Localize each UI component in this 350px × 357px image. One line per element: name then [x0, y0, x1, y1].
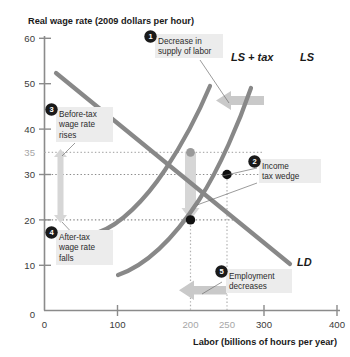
- curve-label-ls: LS: [300, 51, 315, 63]
- y-tick-label-10: 10: [24, 260, 35, 271]
- marker-before-tax-equilibrium: [186, 148, 195, 157]
- callout-4-line-1: After-tax: [59, 233, 90, 242]
- callout-1-line-2: supply of labor: [158, 47, 212, 56]
- y-tick-label-30: 30: [24, 169, 35, 180]
- y-tick-label-0: 0: [30, 309, 35, 320]
- curve-label-ld: LD: [297, 256, 312, 268]
- y-tick-label-50: 50: [24, 78, 35, 89]
- callout-2-line-1: Income: [262, 162, 289, 171]
- marker-after-tax-wage-point: [186, 215, 195, 224]
- callout-3-before-tax-wage-rises: Before-tax wage rate rises 3: [45, 103, 113, 156]
- before-after-wage-range-arrow: [54, 149, 67, 223]
- callout-3-line-1: Before-tax: [59, 110, 97, 119]
- y-tick-label-20: 20: [24, 215, 35, 226]
- callout-3-line-2: wage rate: [58, 120, 95, 129]
- callout-3-number: 3: [49, 105, 53, 114]
- labor-supply-curve: [118, 88, 251, 275]
- x-tick-label-250: 250: [219, 319, 235, 330]
- x-tick-label-0: 0: [42, 319, 47, 330]
- callout-5-line-2: decreases: [229, 282, 267, 291]
- callout-2-number: 2: [252, 157, 256, 166]
- x-axis-title: Labor (billions of hours per year): [193, 337, 337, 347]
- callout-1-decrease-supply: Decrease in supply of labor 1: [144, 30, 229, 103]
- callout-2-line-2: tax wedge: [262, 172, 300, 181]
- x-tick-label-200: 200: [182, 319, 198, 330]
- labor-market-tax-chart: Real wage rate (2009 dollars per hour) 6…: [0, 0, 350, 357]
- x-tick-label-400: 400: [329, 319, 345, 330]
- y-axis-title: Real wage rate (2009 dollars per hour): [28, 16, 194, 26]
- callout-2-income-tax-wedge: Income tax wedge 2: [197, 155, 321, 205]
- chart-page: Real wage rate (2009 dollars per hour) 6…: [0, 0, 350, 357]
- curve-label-ls-tax: LS + tax: [231, 51, 274, 63]
- x-tick-label-300: 300: [256, 319, 272, 330]
- x-tick-label-100: 100: [109, 319, 125, 330]
- callout-1-line-1: Decrease in: [158, 37, 202, 46]
- y-tick-label-35: 35: [24, 147, 35, 158]
- callout-4-line-2: wage rate: [58, 243, 95, 252]
- callout-4-line-3: falls: [59, 254, 74, 263]
- callout-3-line-3: rises: [59, 131, 76, 140]
- callout-5-line-1: Employment: [229, 272, 275, 281]
- y-tick-label-60: 60: [24, 33, 35, 44]
- y-tick-label-40: 40: [24, 124, 35, 135]
